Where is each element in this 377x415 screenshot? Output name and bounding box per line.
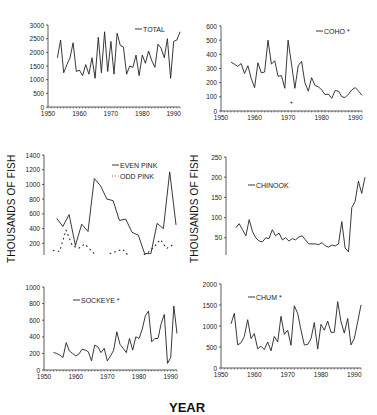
y-tick-label: 100 [206, 93, 217, 100]
y-tick-label: 600 [29, 317, 40, 324]
x-tick-label: 1960 [247, 371, 262, 378]
chart-chum: 050010001500200019501960197019801990CHUM… [185, 280, 377, 394]
x-axis-label: YEAR [169, 400, 205, 415]
y-tick-label: 200 [211, 174, 222, 181]
x-tick-label: 1950 [214, 114, 229, 120]
x-tick-label: 1970 [281, 114, 296, 120]
series-line-even-pink [57, 172, 176, 254]
y-tick-label: 500 [206, 37, 217, 44]
series-line-total [57, 32, 180, 79]
y-tick-label: 2000 [30, 49, 45, 56]
series-line-chum- [231, 302, 361, 351]
legend-label: CHINOOK [256, 182, 289, 189]
y-tick-label: 500 [33, 90, 44, 97]
axes: 0500100015002000250030001950196019701980… [30, 22, 182, 118]
y-tick-label: 1400 [26, 152, 41, 159]
x-tick-label: 1980 [314, 114, 329, 120]
chart-chinook: 05010015020025019501960197019801990CHINO… [185, 145, 377, 259]
legend-label: TOTAL [143, 26, 165, 33]
legend-item: COHO * [316, 28, 350, 35]
y-axis-label-right: THOUSANDS OF FISH [189, 155, 200, 263]
y-tick-label: 300 [206, 65, 217, 72]
chart-pink: 0200400600800100012001400195019601970198… [0, 145, 190, 259]
y-tick-label: 400 [29, 333, 40, 340]
y-tick-label: 400 [29, 225, 40, 232]
x-tick-label: 1960 [72, 110, 87, 117]
series-line-coho- [231, 40, 362, 98]
x-tick-label: 1950 [41, 110, 56, 117]
x-tick-label: 1950 [214, 371, 229, 378]
x-tick-label: 1980 [314, 371, 329, 378]
y-tick-label: 400 [206, 51, 217, 58]
y-tick-label: 250 [211, 154, 222, 161]
x-tick-label: 1980 [132, 373, 147, 380]
chart-sockeye-svg: 0200400600800100019501960197019801990SOC… [0, 280, 190, 390]
y-tick-label: 600 [206, 23, 217, 30]
legend-item: CHUM * [248, 294, 282, 301]
y-tick-label: 1500 [30, 63, 45, 70]
chart-pink-svg: 0200400600800100012001400195019601970198… [0, 145, 190, 255]
y-tick-label: 800 [29, 196, 40, 203]
y-tick-label: 50 [215, 234, 223, 241]
y-tick-label: 1200 [26, 166, 41, 173]
x-tick-label: 1970 [104, 110, 119, 117]
y-axis-label-left: THOUSANDS OF FISH [6, 155, 17, 263]
y-tick-label: 1000 [30, 76, 45, 83]
x-tick-label: 1960 [247, 114, 262, 120]
x-tick-label: 1990 [347, 371, 362, 378]
chart-chum-svg: 050010001500200019501960197019801990CHUM… [185, 280, 377, 390]
legend-item: TOTAL [135, 26, 165, 33]
y-tick-label: 200 [29, 350, 40, 357]
y-tick-label: 200 [206, 79, 217, 86]
chart-sockeye: 0200400600800100019501960197019801990SOC… [0, 280, 190, 394]
legend-label: CHUM * [256, 294, 282, 301]
axes: 050010001500200019501960197019801990 [203, 281, 362, 379]
chart-total: 0500100015002000250030001950196019701980… [0, 10, 190, 124]
x-tick-label: 1960 [68, 373, 83, 380]
legend-label: SOCKEYE * [81, 297, 120, 304]
annotation: + [290, 99, 294, 105]
legend-item: SOCKEYE * [73, 297, 120, 304]
y-tick-label: 600 [29, 210, 40, 217]
y-tick-label: 100 [211, 214, 222, 221]
y-tick-label: 2000 [203, 281, 218, 288]
axes: 010020030040050060019501960197019801990 [206, 23, 363, 121]
y-tick-label: 500 [206, 344, 217, 351]
legend-label: EVEN PINK [120, 162, 158, 169]
x-tick-label: 1990 [348, 114, 363, 120]
y-tick-label: 1000 [26, 284, 41, 291]
x-tick-label: 1970 [280, 371, 295, 378]
y-tick-label: 0 [36, 255, 40, 256]
legend-item: EVEN PINK [112, 162, 158, 169]
legend-label: ODD PINK [120, 173, 154, 180]
y-tick-label: 800 [29, 300, 40, 307]
x-tick-label: 1970 [100, 373, 115, 380]
y-tick-label: 0 [218, 255, 222, 256]
y-tick-label: 200 [29, 240, 40, 247]
y-tick-label: 1000 [26, 181, 41, 188]
x-tick-label: 1990 [163, 373, 178, 380]
y-tick-label: 2500 [30, 35, 45, 42]
chart-coho-svg: 010020030040050060019501960197019801990+… [188, 10, 377, 120]
series-line-sockeye- [54, 306, 178, 363]
legend-label: COHO * [324, 28, 350, 35]
x-tick-label: 1980 [135, 110, 150, 117]
y-tick-label: 1000 [203, 323, 218, 330]
axes: 05010015020025019501960197019801990 [211, 154, 366, 256]
legend-item: ODD PINK [112, 173, 154, 180]
chart-total-svg: 0500100015002000250030001950196019701980… [0, 10, 190, 120]
chart-coho: 010020030040050060019501960197019801990+… [188, 10, 377, 124]
x-tick-label: 1990 [166, 110, 181, 117]
y-tick-label: 1500 [203, 302, 218, 309]
legend-item: CHINOOK [248, 182, 289, 189]
chart-chinook-svg: 05010015020025019501960197019801990CHINO… [185, 145, 377, 255]
y-tick-label: 3000 [30, 22, 45, 29]
x-tick-label: 1950 [37, 373, 52, 380]
y-tick-label: 150 [211, 194, 222, 201]
